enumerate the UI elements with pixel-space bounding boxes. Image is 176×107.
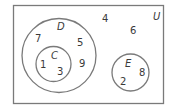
set-label-e: E xyxy=(125,58,132,69)
element-3: 3 xyxy=(57,66,63,77)
element-7: 7 xyxy=(35,33,41,44)
element-2: 2 xyxy=(120,76,126,87)
set-label-c: C xyxy=(51,50,58,61)
universal-set-rectangle xyxy=(14,6,164,104)
element-5: 5 xyxy=(77,37,83,48)
element-9: 9 xyxy=(79,58,85,69)
set-label-u: U xyxy=(153,11,161,22)
element-1: 1 xyxy=(40,59,46,70)
element-6: 6 xyxy=(130,25,136,36)
element-4: 4 xyxy=(102,13,108,24)
venn-diagram: U D C E 4 6 7 5 9 1 3 8 2 xyxy=(0,0,176,107)
set-label-d: D xyxy=(57,21,65,32)
element-8: 8 xyxy=(139,67,145,78)
